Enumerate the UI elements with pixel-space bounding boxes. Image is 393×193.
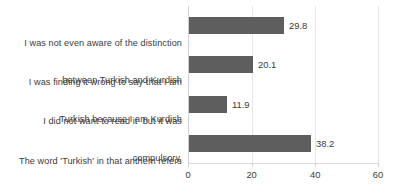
tick-label-40: 40 [310,170,320,179]
bar-value-label: 38.2 [316,139,334,148]
bar[interactable] [189,96,227,113]
category-label: The word 'Turkish' in that anthem refers… [0,130,182,193]
category-label-line: I did not want to read it but it was [0,115,182,127]
bar-value-label: 20.1 [258,60,276,69]
tick-mark-40 [315,163,316,167]
category-label-line: to 'the citizens of Turkey' and it does… [0,192,182,193]
tick-label-60: 60 [373,170,383,179]
bar[interactable] [189,56,253,73]
bar-value-label: 11.9 [232,100,250,109]
bar-value-label: 29.8 [289,21,307,30]
category-label-line: The word 'Turkish' in that anthem refers [0,155,182,167]
tick-label-0: 0 [185,170,190,179]
bar[interactable] [189,135,311,152]
tick-mark-0 [188,163,189,167]
gridline-60 [378,6,379,163]
tick-mark-60 [378,163,379,167]
category-axis-labels: I was not even aware of the distinction … [0,6,186,163]
category-label-line: I was finding it wrong to say that I am [0,76,182,88]
plot-area: 29.8 20.1 11.9 38.2 [188,6,379,163]
tick-mark-20 [252,163,253,167]
bar[interactable] [189,17,284,34]
category-label-line: I was not even aware of the distinction [0,37,182,49]
tick-label-20: 20 [246,170,256,179]
category-axis-line [188,163,379,164]
bar-chart: I was not even aware of the distinction … [0,0,393,193]
